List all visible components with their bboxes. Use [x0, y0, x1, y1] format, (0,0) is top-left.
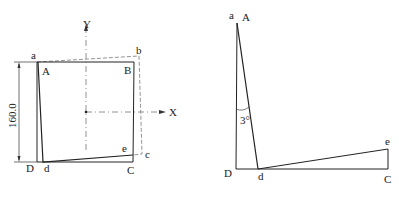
- label-d: d: [44, 162, 50, 174]
- label-A: A: [242, 11, 250, 23]
- right-figure: 3° a A D d C e: [224, 9, 391, 185]
- label-A: A: [42, 65, 50, 77]
- dimension-value: 160.0: [6, 103, 18, 128]
- label-e: e: [385, 135, 390, 147]
- left-figure: 160.0 a A B b e c C D d Y X: [6, 18, 177, 176]
- label-e: e: [122, 142, 127, 154]
- label-Y: Y: [83, 18, 91, 30]
- label-c: c: [145, 148, 150, 160]
- label-b: b: [136, 44, 142, 56]
- bottom-edge-dC-e: [258, 149, 388, 169]
- label-C: C: [384, 173, 391, 185]
- label-a: a: [31, 49, 36, 61]
- origin-point: [85, 111, 88, 114]
- dimension-arrow-top-icon: [18, 62, 21, 68]
- angle-arc: [236, 107, 249, 110]
- deformation-diagram: 160.0 a A B b e c C D d Y X 3° a A D d C…: [0, 0, 399, 198]
- label-d: d: [258, 170, 264, 182]
- label-X: X: [169, 106, 177, 118]
- label-D: D: [224, 167, 232, 179]
- label-D: D: [26, 162, 34, 174]
- label-a: a: [229, 9, 234, 21]
- x-axis-arrow-icon: [159, 110, 166, 114]
- angle-label: 3°: [240, 114, 250, 126]
- rotated-edge-Ad: [237, 23, 258, 169]
- coordinate-axes: [86, 28, 160, 150]
- label-C: C: [127, 164, 134, 176]
- label-B: B: [124, 64, 131, 76]
- dimension-arrow-bottom-icon: [18, 156, 21, 162]
